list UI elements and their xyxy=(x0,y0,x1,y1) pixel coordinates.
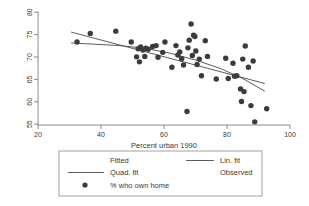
scatter-point xyxy=(185,45,190,50)
x-tick-label-20: 20 xyxy=(34,131,42,138)
legend-header-observed: Observed xyxy=(220,168,253,177)
y-tick-label-55: 55 xyxy=(26,120,33,128)
scatter-point xyxy=(194,62,199,67)
y-tick-label-70: 70 xyxy=(26,53,33,61)
scatter-point xyxy=(246,65,251,70)
scatter-point xyxy=(155,55,160,60)
y-tick-label-80: 80 xyxy=(26,8,33,16)
scatter-point xyxy=(264,106,269,111)
scatter-point xyxy=(181,62,186,67)
scatter-point xyxy=(193,48,198,53)
scatter-point xyxy=(248,103,253,108)
scatter-point xyxy=(113,28,118,33)
scatter-plot-svg: 55 60 65 70 75 80 20 40 60 80 100 Percen… xyxy=(0,0,309,206)
scatter-point xyxy=(252,119,257,124)
scatter-point xyxy=(241,89,246,94)
scatter-point xyxy=(129,39,134,44)
scatter-point xyxy=(223,56,228,61)
y-tick-label-60: 60 xyxy=(26,98,33,106)
scatter-point xyxy=(177,49,182,54)
scatter-point xyxy=(203,38,208,43)
chart-background xyxy=(0,0,309,206)
scatter-point xyxy=(205,54,210,59)
scatter-point xyxy=(243,43,248,48)
y-tick-label-65: 65 xyxy=(26,75,33,83)
scatter-point xyxy=(142,54,147,59)
scatter-point xyxy=(134,54,139,59)
scatter-point xyxy=(188,21,193,26)
scatter-point xyxy=(250,58,255,63)
scatter-point xyxy=(153,43,158,48)
scatter-point xyxy=(162,39,167,44)
scatter-point xyxy=(197,56,202,61)
scatter-point xyxy=(199,73,204,78)
scatter-point xyxy=(184,109,189,114)
scatter-point xyxy=(240,56,245,61)
x-tick-label-100: 100 xyxy=(284,131,296,138)
legend-label-lin-fit: Lin. fit xyxy=(220,156,241,165)
x-axis-title: Percent urban 1990 xyxy=(131,141,197,150)
x-tick-label-60: 60 xyxy=(160,131,168,138)
chart-figure: 55 60 65 70 75 80 20 40 60 80 100 Percen… xyxy=(0,0,309,206)
scatter-point xyxy=(88,31,93,36)
legend-label-quad-fit: Quad. fit xyxy=(110,168,139,177)
scatter-point xyxy=(173,43,178,48)
scatter-point xyxy=(214,76,219,81)
scatter-point xyxy=(179,56,184,61)
x-tick-label-80: 80 xyxy=(223,131,231,138)
y-tick-label-75: 75 xyxy=(26,31,33,39)
scatter-point xyxy=(190,53,195,58)
scatter-point xyxy=(239,99,244,104)
legend-header-fitted: Fitted xyxy=(110,156,129,165)
scatter-point xyxy=(74,39,79,44)
legend-label-own-home: % who own home xyxy=(110,181,169,190)
scatter-point xyxy=(137,59,142,64)
x-tick-label-40: 40 xyxy=(97,131,105,138)
scatter-point xyxy=(160,50,165,55)
scatter-point xyxy=(226,76,231,81)
scatter-point xyxy=(234,73,239,78)
scatter-point xyxy=(230,60,235,65)
scatter-point xyxy=(169,65,174,70)
scatter-point xyxy=(187,37,192,42)
legend-key-marker-icon xyxy=(82,182,87,187)
scatter-point xyxy=(192,34,197,39)
